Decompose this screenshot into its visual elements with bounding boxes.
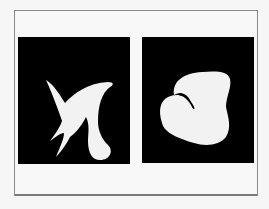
spiky-shape bbox=[18, 37, 130, 164]
left-panel bbox=[18, 37, 130, 164]
rounded-blob-shape bbox=[142, 37, 254, 163]
right-panel bbox=[142, 37, 254, 163]
